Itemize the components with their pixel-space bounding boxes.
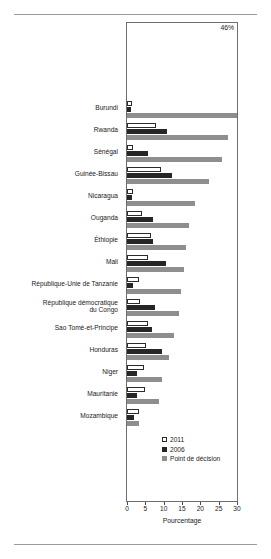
bar-2006 bbox=[127, 129, 167, 134]
category-axis-labels: BurundiRwandaSénégalGuinée-BissauNicarag… bbox=[0, 22, 122, 502]
category-label: Sao Tomé-et-Principe bbox=[55, 324, 118, 331]
chart-legend: 2011 2006 Point de décision bbox=[160, 434, 222, 465]
x-tick-label: 10 bbox=[160, 505, 167, 513]
category-label: Niger bbox=[102, 368, 118, 375]
bar-2011 bbox=[127, 145, 133, 150]
bar-point-de-decision bbox=[127, 223, 189, 228]
category-label: Mauritanie bbox=[87, 390, 118, 397]
gray-square-icon bbox=[162, 456, 167, 461]
category-label: Mozambique bbox=[80, 412, 118, 419]
x-tick-label: 15 bbox=[178, 505, 185, 513]
plot-area: 46% bbox=[126, 22, 238, 502]
annotation-46-percent: 46% bbox=[219, 24, 235, 31]
bar-point-de-decision bbox=[127, 355, 169, 360]
bar-2006 bbox=[127, 195, 132, 200]
category-label: Ouganda bbox=[91, 214, 118, 221]
bar-2006 bbox=[127, 415, 134, 420]
bar-2006 bbox=[127, 327, 152, 332]
category-label: Sénégal bbox=[94, 148, 118, 155]
bar-point-de-decision bbox=[127, 421, 139, 426]
bar-2011 bbox=[127, 409, 139, 414]
bar-2006 bbox=[127, 239, 153, 244]
bar-2006 bbox=[127, 107, 131, 112]
bar-point-de-decision bbox=[127, 289, 181, 294]
category-label: Burundi bbox=[95, 104, 118, 111]
bar-2011 bbox=[127, 189, 133, 194]
legend-item-point-de-decision: Point de décision bbox=[162, 454, 220, 464]
bar-point-de-decision bbox=[127, 179, 209, 184]
legend-label-point-de-decision: Point de décision bbox=[170, 454, 220, 464]
bar-2011 bbox=[127, 277, 139, 282]
hollow-square-icon bbox=[162, 437, 167, 442]
bar-2006 bbox=[127, 393, 137, 398]
legend-item-2011: 2011 bbox=[162, 435, 220, 445]
legend-label-2011: 2011 bbox=[170, 435, 184, 445]
legend-label-2006: 2006 bbox=[170, 445, 185, 455]
category-label: Guinée-Bissau bbox=[75, 170, 118, 177]
bar-2011 bbox=[127, 123, 156, 128]
bar-2006 bbox=[127, 217, 153, 222]
bar-2011 bbox=[127, 343, 146, 348]
bar-point-de-decision bbox=[127, 399, 159, 404]
category-label: Honduras bbox=[89, 346, 118, 353]
category-label: République démocratique du Congo bbox=[43, 299, 118, 314]
x-tick-label: 30 bbox=[233, 505, 240, 513]
bar-2006 bbox=[127, 371, 137, 376]
bar-2006 bbox=[127, 151, 148, 156]
bar-2011 bbox=[127, 167, 161, 172]
x-tick-label: 20 bbox=[197, 505, 204, 513]
bar-2011 bbox=[127, 101, 132, 106]
bar-2011 bbox=[127, 211, 142, 216]
bar-2011 bbox=[127, 233, 151, 238]
x-axis: 051015202530 bbox=[126, 502, 238, 514]
bar-chart: BurundiRwandaSénégalGuinée-BissauNicarag… bbox=[0, 0, 271, 559]
x-axis-title: Pourcentage bbox=[126, 517, 238, 524]
category-label: Éthiopie bbox=[94, 236, 118, 243]
category-label: Rwanda bbox=[94, 126, 118, 133]
bar-2006 bbox=[127, 261, 166, 266]
bar-2006 bbox=[127, 349, 162, 354]
bar-point-de-decision bbox=[127, 113, 237, 118]
category-label: Mali bbox=[106, 258, 118, 265]
bar-point-de-decision bbox=[127, 267, 184, 272]
x-tick-label: 25 bbox=[215, 505, 222, 513]
bar-2011 bbox=[127, 299, 140, 304]
category-label: République-Unie de Tanzanie bbox=[32, 280, 118, 287]
bar-2011 bbox=[127, 387, 145, 392]
bar-point-de-decision bbox=[127, 333, 174, 338]
bar-2006 bbox=[127, 173, 172, 178]
bar-point-de-decision bbox=[127, 157, 222, 162]
bar-point-de-decision bbox=[127, 377, 162, 382]
bar-2006 bbox=[127, 305, 155, 310]
bar-2006 bbox=[127, 283, 133, 288]
bar-point-de-decision bbox=[127, 135, 228, 140]
bar-2011 bbox=[127, 321, 148, 326]
x-tick-label: 0 bbox=[125, 505, 129, 513]
bar-point-de-decision bbox=[127, 245, 186, 250]
black-square-icon bbox=[162, 447, 167, 452]
bar-2011 bbox=[127, 255, 148, 260]
category-label: Nicaragua bbox=[88, 192, 118, 199]
bar-2011 bbox=[127, 365, 144, 370]
x-tick-label: 5 bbox=[143, 505, 147, 513]
legend-item-2006: 2006 bbox=[162, 445, 220, 455]
bar-point-de-decision bbox=[127, 201, 195, 206]
bar-point-de-decision bbox=[127, 311, 179, 316]
